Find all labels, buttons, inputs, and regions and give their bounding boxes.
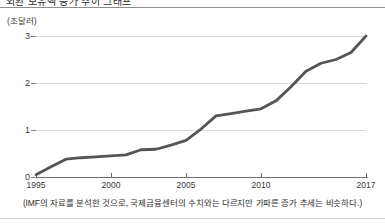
chart-page: 외환 보유액 증가 추이 그래프 (조달러) 3 2 1 0 1995 2000…: [0, 0, 385, 223]
data-line-series-0: [36, 36, 366, 175]
chart-caption: (IMF의 자료를 분석한 것으로, 국제금융센터의 수치와는 다르지만 가파른…: [0, 196, 385, 208]
chart-series-layer: [0, 0, 385, 223]
footer-divider: [0, 218, 385, 219]
